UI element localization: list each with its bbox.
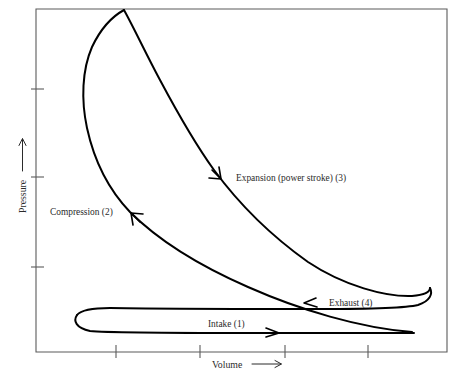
y-axis-label-group: Pressure (17, 139, 28, 214)
x-axis-label-group: Volume (212, 359, 282, 370)
pv-diagram-canvas: Expansion (power stroke) (3) Compression… (0, 0, 460, 373)
y-axis-ticks (31, 89, 44, 267)
cycle-curve-group (75, 10, 431, 333)
curve-labels: Expansion (power stroke) (3) Compression… (50, 173, 372, 330)
x-axis-arrow (252, 361, 282, 368)
label-intake: Intake (1) (208, 319, 245, 330)
y-axis-label: Pressure (17, 179, 28, 213)
pv-diagram-figure: Expansion (power stroke) (3) Compression… (0, 0, 460, 373)
arrowhead-expansion (209, 167, 221, 179)
arrowhead-exhaust (304, 298, 317, 307)
curve-expansion (124, 10, 430, 296)
flow-arrowheads (131, 167, 317, 337)
label-expansion: Expansion (power stroke) (3) (236, 173, 346, 184)
label-compression: Compression (2) (50, 207, 113, 218)
y-axis-arrow (19, 139, 26, 172)
curve-compression (83, 10, 412, 332)
x-axis-label: Volume (212, 359, 243, 370)
label-exhaust: Exhaust (4) (329, 298, 372, 309)
